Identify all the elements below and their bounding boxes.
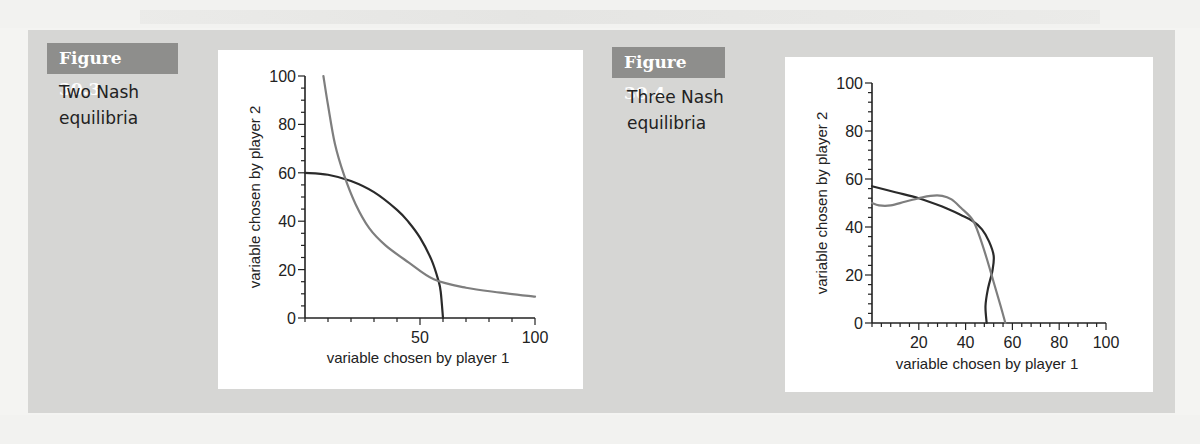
y-tick-label: 20 — [278, 262, 296, 279]
x-tick-label: 50 — [411, 329, 429, 346]
x-axis-label: variable chosen by player 1 — [896, 355, 1079, 372]
chart-three-nash-equilibria: 20406080100020406080100variable chosen b… — [785, 57, 1153, 392]
figure-30-4-plot-box: 20406080100020406080100variable chosen b… — [785, 57, 1153, 392]
y-tick-label: 0 — [854, 315, 863, 332]
x-tick-label: 100 — [1093, 334, 1120, 351]
series-dark-curve — [305, 173, 443, 318]
y-tick-label: 100 — [269, 68, 296, 85]
y-tick-label: 40 — [845, 219, 863, 236]
series-dark-curve — [872, 186, 994, 323]
caption-line: Two Nash — [59, 79, 139, 105]
y-tick-label: 20 — [845, 267, 863, 284]
y-tick-label: 60 — [278, 165, 296, 182]
x-tick-label: 60 — [1004, 334, 1022, 351]
x-tick-label: 100 — [522, 329, 549, 346]
y-tick-label: 40 — [278, 213, 296, 230]
y-tick-label: 80 — [278, 116, 296, 133]
x-tick-label: 40 — [957, 334, 975, 351]
figure-30-3-plot-box: 50100020406080100variable chosen by play… — [218, 50, 583, 389]
y-axis-label: variable chosen by player 2 — [246, 106, 263, 289]
y-tick-label: 100 — [836, 75, 863, 92]
x-axis-label: variable chosen by player 1 — [327, 349, 510, 366]
caption-line: Three Nash — [627, 84, 724, 110]
y-tick-label: 80 — [845, 123, 863, 140]
x-tick-label: 20 — [910, 334, 928, 351]
chart-two-nash-equilibria: 50100020406080100variable chosen by play… — [218, 50, 583, 389]
figure-30-3-label: Figure 30.3 — [47, 43, 178, 74]
y-tick-label: 60 — [845, 171, 863, 188]
figure-30-4-caption: Three Nash equilibria — [627, 84, 724, 136]
caption-line: equilibria — [59, 105, 139, 131]
series-light-curve — [323, 76, 535, 297]
top-page-strip — [0, 0, 1200, 28]
figure-30-3-caption: Two Nash equilibria — [59, 79, 139, 131]
caption-line: equilibria — [627, 110, 724, 136]
x-tick-label: 80 — [1050, 334, 1068, 351]
y-tick-label: 0 — [287, 310, 296, 327]
cut-off-text — [140, 10, 1100, 24]
bottom-page-strip — [0, 415, 1200, 444]
y-axis-label: variable chosen by player 2 — [813, 112, 830, 295]
figure-30-4-label: Figure 30.4 — [612, 47, 725, 78]
